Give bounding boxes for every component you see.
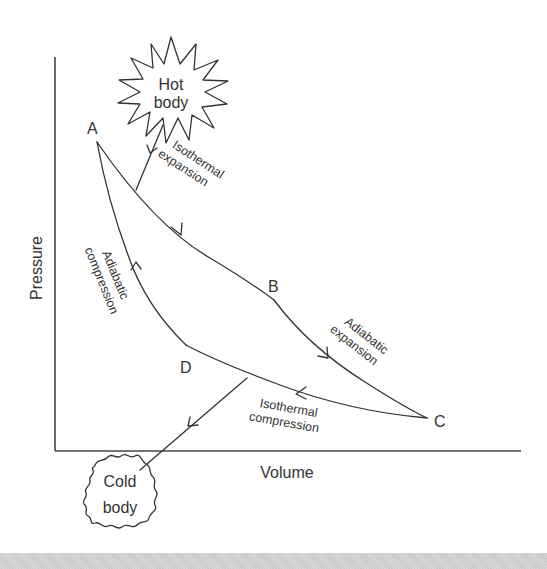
adiabatic-expansion-label: Adiabatic expansion — [327, 310, 391, 369]
y-axis-label: Pressure — [28, 236, 45, 300]
process-labels: Isothermal expansion Adiabatic expansion… — [82, 134, 391, 436]
axes — [55, 57, 521, 451]
point-c-label: C — [434, 413, 446, 430]
hot-body-label-line1: Hot — [159, 76, 184, 93]
cold-body-label-line2: body — [103, 499, 138, 516]
carnot-cycle-diagram: Pressure Volume A B C D Isothermal expan… — [0, 0, 547, 569]
arrow-ab-icon — [171, 223, 182, 235]
hot-body: Hot body — [118, 37, 228, 143]
isothermal-compression-label: Isothermal compression — [248, 395, 323, 436]
point-b-label: B — [268, 278, 279, 295]
heat-out-arrow — [140, 378, 247, 470]
cold-body-label-line1: Cold — [104, 473, 137, 490]
heat-in-arrowhead-icon — [147, 145, 157, 153]
cycle-curves — [97, 142, 427, 418]
point-d-label: D — [180, 359, 192, 376]
footer-bar — [0, 553, 547, 569]
hot-body-label-line2: body — [154, 94, 189, 111]
point-a-label: A — [87, 120, 98, 137]
x-axis-label: Volume — [260, 464, 313, 481]
point-labels: A B C D — [87, 120, 446, 430]
direction-arrows — [131, 223, 328, 399]
